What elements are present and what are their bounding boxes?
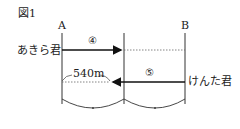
- ratio-5-label: ⑤: [145, 67, 154, 79]
- arc-left-mid-mark: [92, 107, 94, 109]
- arc-left: [62, 99, 124, 108]
- akira-label: あきら君: [17, 45, 61, 57]
- arc-right: [124, 99, 185, 108]
- kenta-label: けんた君: [188, 76, 232, 88]
- diagram-lines: [0, 0, 240, 129]
- arc-right-mid-mark: [154, 107, 156, 109]
- figure-title: 図1: [18, 8, 36, 20]
- point-a-label: A: [58, 20, 66, 32]
- ratio-4-label: ④: [88, 35, 97, 47]
- distance-label: 540m: [73, 68, 104, 80]
- point-b-label: B: [181, 20, 189, 32]
